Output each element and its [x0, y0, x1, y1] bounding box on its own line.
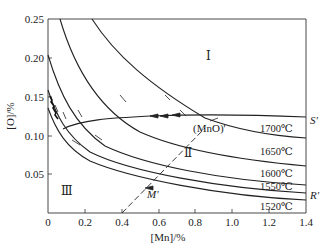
y-tick-0.10: 0.10: [25, 130, 45, 142]
label-1520: 1520℃: [260, 201, 293, 212]
region-III-label: Ⅲ: [61, 184, 73, 198]
x-axis-title: [Mn]/%: [151, 231, 186, 243]
x-tick-1.4: 1.4: [299, 216, 313, 228]
region-I-label: Ⅰ: [206, 49, 211, 63]
x-tick-0.8: 0.8: [188, 216, 202, 228]
y-tick-0.20: 0.20: [25, 52, 45, 64]
curve-1700: [92, 19, 306, 138]
r-prime-label: R': [309, 189, 320, 201]
label-1700: 1700℃: [260, 123, 293, 134]
label-1550: 1550℃: [260, 181, 293, 192]
y-tick-0.25: 0.25: [25, 13, 45, 25]
label-1600: 1600℃: [260, 168, 293, 179]
x-tick-0.6: 0.6: [152, 216, 166, 228]
y-tick-0.05: 0.05: [25, 168, 45, 180]
mno-prime-label: (MnO)': [193, 122, 226, 135]
mn-o-equilibrium-chart: 0.25 0.20 0.15 0.10 0.05 0 0.2 0.4 0.6 0…: [0, 0, 328, 249]
x-tick-labels: 0 0.2 0.4 0.6 0.8 1.0 1.2 1.4: [45, 216, 313, 228]
curve-1600: [48, 55, 306, 185]
m-prime-label: M': [146, 188, 159, 200]
y-axis-title: [O]/%: [4, 102, 16, 130]
x-tick-0.4: 0.4: [115, 216, 129, 228]
curve-1650: [60, 19, 306, 166]
x-axis-ticks: [85, 209, 269, 213]
y-tick-labels: 0.25 0.20 0.15 0.10 0.05: [25, 13, 45, 180]
x-tick-0: 0: [45, 216, 51, 228]
x-tick-1.2: 1.2: [262, 216, 276, 228]
s-prime-label: S': [310, 114, 319, 126]
x-tick-1.0: 1.0: [225, 216, 239, 228]
region-II-label: Ⅱ: [184, 146, 192, 160]
y-tick-0.15: 0.15: [25, 91, 45, 103]
x-tick-0.2: 0.2: [78, 216, 92, 228]
label-1650: 1650℃: [260, 146, 293, 157]
